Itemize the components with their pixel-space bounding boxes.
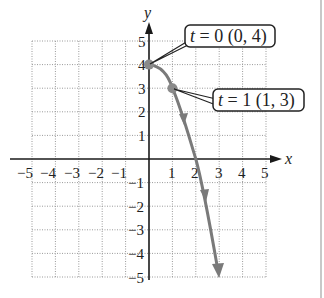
y-axis-label: y bbox=[142, 4, 152, 22]
y-tick: 2 bbox=[138, 104, 146, 120]
y-tick: 1 bbox=[138, 128, 146, 144]
x-tick: −1 bbox=[111, 165, 127, 181]
point-t1 bbox=[167, 83, 177, 93]
y-tick: −5 bbox=[128, 270, 144, 286]
callout-t1-text: = 1 (1, 3) bbox=[223, 90, 295, 111]
x-tick: 4 bbox=[238, 165, 246, 181]
x-tick: −3 bbox=[64, 165, 80, 181]
callout-t1: t = 1 (1, 3) bbox=[174, 89, 304, 111]
x-axis-label: x bbox=[284, 150, 292, 167]
x-tick: 5 bbox=[261, 165, 269, 181]
y-tick: −2 bbox=[128, 199, 144, 215]
x-axis-arrow-icon bbox=[270, 155, 282, 163]
callout-t0: t = 0 (0, 4) bbox=[150, 25, 275, 64]
parametric-curve bbox=[149, 65, 218, 268]
y-axis-arrow-icon bbox=[145, 22, 153, 34]
svg-text:t = 0 (0, 4): t = 0 (0, 4) bbox=[190, 26, 267, 47]
direction-arrow-icon bbox=[179, 113, 188, 125]
x-tick: −4 bbox=[40, 165, 56, 181]
parametric-curve-chart: x y −5 −4 −3 −2 −1 1 2 3 4 5 5 4 3 2 1 −… bbox=[0, 0, 324, 298]
direction-arrow-icon bbox=[212, 263, 224, 278]
x-tick: 1 bbox=[168, 165, 176, 181]
point-t0 bbox=[144, 60, 154, 70]
y-tick-labels: 5 4 3 2 1 −1 −2 −3 −4 −5 bbox=[128, 34, 146, 286]
callout-t0-text: = 0 (0, 4) bbox=[195, 26, 267, 47]
x-tick: 3 bbox=[215, 165, 223, 181]
y-tick: −1 bbox=[128, 175, 144, 191]
y-tick: 5 bbox=[138, 34, 146, 50]
x-tick: −5 bbox=[17, 165, 33, 181]
y-tick: −3 bbox=[128, 222, 144, 238]
y-tick: 3 bbox=[138, 81, 146, 97]
svg-text:t = 1 (1, 3): t = 1 (1, 3) bbox=[218, 90, 295, 111]
y-tick: −4 bbox=[128, 246, 144, 262]
x-tick: −2 bbox=[88, 165, 104, 181]
